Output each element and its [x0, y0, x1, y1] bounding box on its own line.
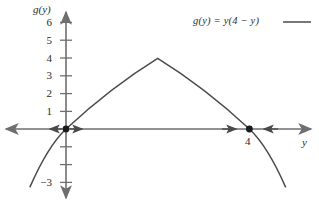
x-axis-label: y — [302, 137, 307, 148]
equilibrium-point-0 — [63, 126, 70, 133]
y-tick-label-5: 5 — [38, 35, 52, 46]
y-tick-label-3: 3 — [38, 70, 52, 81]
graph-canvas — [0, 0, 319, 204]
x-tick-label-4: 4 — [245, 136, 251, 147]
y-tick-label-6: 6 — [38, 17, 52, 28]
figure-container: g(y) y 6 5 4 3 2 1 −3 4 g(y) = y(4 − y) — [0, 0, 319, 204]
legend-entry-label: g(y) = y(4 − y) — [193, 16, 259, 27]
y-tick-label-2: 2 — [38, 88, 52, 99]
y-tick-label-1: 1 — [38, 106, 52, 117]
equilibrium-point-4 — [246, 126, 253, 133]
parabola-curve — [30, 58, 286, 187]
y-axis-label: g(y) — [33, 4, 51, 15]
y-tick-label-4: 4 — [38, 53, 52, 64]
y-tick-label-neg3: −3 — [29, 177, 52, 188]
